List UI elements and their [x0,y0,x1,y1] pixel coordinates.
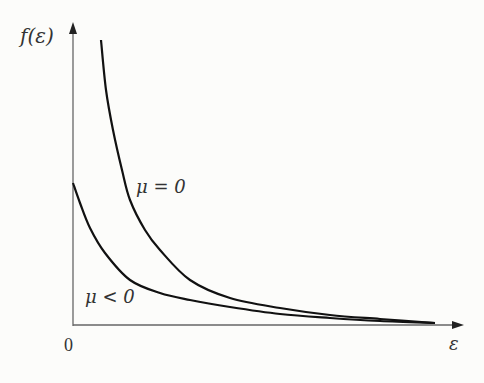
y-axis-label: f(ε) [18,24,54,48]
y-axis-arrow-icon [69,22,77,34]
chart-canvas: f(ε) ε 0 μ = 0 μ < 0 [0,0,484,383]
x-axis-label: ε [449,333,459,354]
annotation-mu-zero: μ = 0 [136,176,186,197]
x-axis-arrow-icon [452,321,464,329]
annotation-mu-negative: μ < 0 [85,286,135,307]
origin-label: 0 [64,335,73,355]
